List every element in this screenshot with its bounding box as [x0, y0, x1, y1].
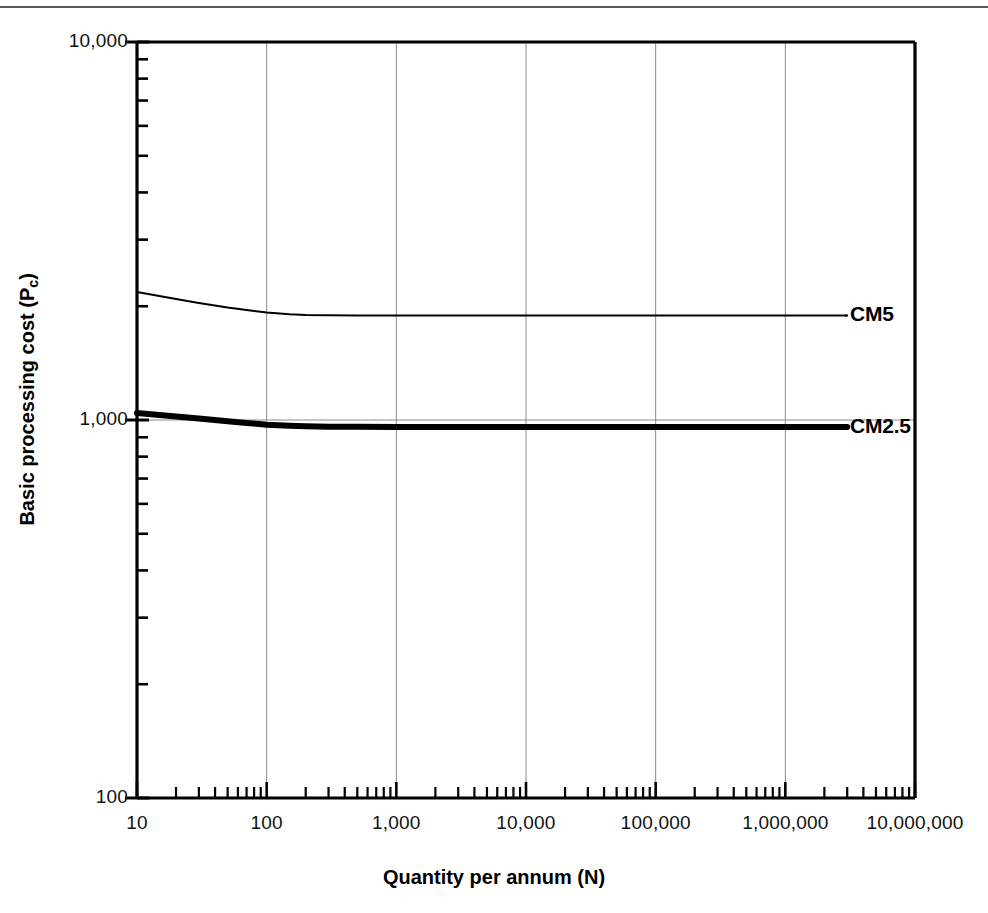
x-tick-label: 1,000 [321, 812, 471, 834]
plot-canvas [0, 0, 988, 913]
y-axis-title-wrapper: Basic processing cost (Pc) [0, 0, 56, 798]
x-tick-label: 10 [62, 812, 212, 834]
series-label-cm2-5: CM2.5 [850, 414, 911, 438]
x-tick-label: 1,000,000 [710, 812, 860, 834]
series-label-cm5: CM5 [850, 302, 894, 326]
chart-figure: 1001,00010,000 101001,00010,000100,0001,… [0, 0, 988, 913]
x-tick-label: 10,000,000 [840, 812, 988, 834]
y-axis-title: Basic processing cost (Pc) [16, 273, 41, 526]
y-axis-title-subscript: c [24, 279, 40, 287]
x-tick-label: 100 [192, 812, 342, 834]
x-axis-title: Quantity per annum (N) [0, 866, 988, 889]
x-tick-label: 100,000 [581, 812, 731, 834]
x-tick-label: 10,000 [451, 812, 601, 834]
